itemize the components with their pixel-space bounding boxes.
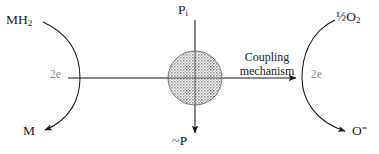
label-high-energy-phosphate: ~P (172, 134, 188, 148)
label-substrate-reduced: MH2 (6, 13, 32, 28)
label-electrons-left: 2e (50, 69, 61, 81)
label-coupling-mechanism: Couplingmechanism (232, 50, 302, 78)
label-substrate-oxidized: M (23, 124, 35, 138)
coupling-line-1: Coupling (245, 50, 290, 64)
substrate-oxidation-arc (43, 22, 80, 130)
diagram-canvas: MH2 M Pi ~P ½O2 O= 2e 2e Couplingmechani… (0, 0, 379, 154)
oxygen-reduction-arc (302, 20, 345, 131)
coupling-black-box (168, 51, 222, 105)
coupling-line-2: mechanism (240, 64, 295, 78)
label-oxygen: ½O2 (336, 10, 360, 25)
label-oxide-ion: O= (352, 124, 367, 138)
label-electrons-right: 2e (311, 69, 322, 81)
label-inorganic-phosphate: Pi (178, 3, 188, 18)
